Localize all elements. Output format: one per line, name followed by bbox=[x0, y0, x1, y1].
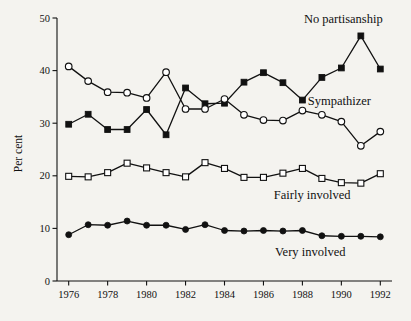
data-point-marker bbox=[182, 106, 189, 113]
data-point-marker bbox=[319, 233, 325, 239]
data-point-marker bbox=[183, 226, 189, 232]
data-point-marker bbox=[85, 111, 91, 117]
data-point-marker bbox=[124, 160, 130, 166]
data-point-marker bbox=[202, 160, 208, 166]
data-point-marker bbox=[144, 222, 150, 228]
series-no-partisanship bbox=[66, 33, 383, 138]
data-point-marker bbox=[183, 85, 189, 91]
y-axis-title: Per cent bbox=[12, 134, 24, 172]
line-chart-canvas: 0102030405019761978198019821984198619881… bbox=[0, 0, 411, 321]
data-point-marker bbox=[105, 127, 111, 133]
data-point-marker bbox=[338, 233, 344, 239]
data-point-marker bbox=[222, 228, 228, 234]
data-point-marker bbox=[299, 165, 305, 171]
data-point-marker bbox=[358, 143, 365, 150]
data-point-marker bbox=[124, 89, 131, 96]
y-axis-tick-label: 20 bbox=[40, 170, 51, 181]
x-axis-tick-label: 1986 bbox=[253, 289, 274, 300]
data-point-marker bbox=[280, 117, 287, 124]
data-point-marker bbox=[377, 66, 383, 72]
x-axis-tick-label: 1990 bbox=[331, 289, 352, 300]
data-point-marker bbox=[299, 107, 306, 114]
data-point-marker bbox=[338, 180, 344, 186]
series-label-no-partisanship: No partisanship bbox=[304, 12, 383, 26]
data-point-marker bbox=[124, 127, 130, 133]
data-point-marker bbox=[319, 175, 325, 181]
series-line bbox=[69, 36, 381, 135]
data-point-marker bbox=[260, 117, 267, 124]
data-point-marker bbox=[377, 128, 384, 135]
series-very-involved bbox=[66, 218, 384, 240]
series-fairly-involved bbox=[66, 160, 384, 187]
data-point-marker bbox=[66, 173, 72, 179]
x-axis-tick-label: 1992 bbox=[370, 289, 391, 300]
data-point-marker bbox=[260, 228, 266, 234]
data-point-marker bbox=[65, 63, 72, 70]
data-point-marker bbox=[299, 228, 305, 234]
data-point-marker bbox=[241, 111, 248, 118]
data-point-marker bbox=[260, 174, 266, 180]
data-point-marker bbox=[202, 106, 209, 113]
data-point-marker bbox=[261, 70, 267, 76]
data-point-marker bbox=[66, 121, 72, 127]
x-axis-tick-label: 1980 bbox=[136, 289, 157, 300]
data-point-marker bbox=[104, 89, 111, 96]
data-point-marker bbox=[124, 218, 130, 224]
data-point-marker bbox=[163, 132, 169, 138]
data-point-marker bbox=[85, 222, 91, 228]
data-point-marker bbox=[358, 33, 364, 39]
data-point-marker bbox=[144, 107, 150, 113]
data-point-marker bbox=[280, 170, 286, 176]
data-point-marker bbox=[183, 174, 189, 180]
series-annotations: No partisanshipSympathizerFairly involve… bbox=[274, 12, 383, 258]
y-axis-tick-label: 0 bbox=[45, 276, 50, 287]
data-point-marker bbox=[221, 96, 228, 103]
data-point-marker bbox=[163, 69, 170, 76]
data-point-marker bbox=[300, 97, 306, 103]
x-axis-tick-label: 1982 bbox=[175, 289, 196, 300]
data-point-marker bbox=[163, 170, 169, 176]
data-point-marker bbox=[241, 79, 247, 85]
data-point-marker bbox=[358, 233, 364, 239]
data-point-marker bbox=[143, 95, 150, 102]
y-axis-tick-label: 30 bbox=[40, 118, 51, 129]
data-point-marker bbox=[319, 111, 326, 118]
data-point-marker bbox=[105, 222, 111, 228]
data-point-marker bbox=[319, 75, 325, 81]
data-point-marker bbox=[280, 80, 286, 86]
data-point-marker bbox=[338, 65, 344, 71]
data-point-marker bbox=[241, 174, 247, 180]
data-point-marker bbox=[280, 228, 286, 234]
data-point-marker bbox=[241, 228, 247, 234]
x-axis-tick-label: 1984 bbox=[214, 289, 236, 300]
x-axis-tick-label: 1978 bbox=[97, 289, 118, 300]
series-label-fairly-involved: Fairly involved bbox=[274, 188, 351, 202]
y-axis-tick-label: 10 bbox=[40, 223, 51, 234]
chart-series-layer bbox=[65, 33, 383, 240]
y-axis-tick-label: 50 bbox=[40, 13, 51, 24]
y-axis-tick-label: 40 bbox=[40, 65, 51, 76]
chart-figure: 0102030405019761978198019821984198619881… bbox=[0, 0, 411, 321]
data-point-marker bbox=[85, 174, 91, 180]
data-point-marker bbox=[85, 78, 92, 85]
series-label-very-involved: Very involved bbox=[275, 245, 346, 259]
data-point-marker bbox=[338, 118, 345, 125]
data-point-marker bbox=[66, 232, 72, 238]
data-point-marker bbox=[377, 171, 383, 177]
data-point-marker bbox=[377, 234, 383, 240]
data-point-marker bbox=[202, 222, 208, 228]
data-point-marker bbox=[163, 222, 169, 228]
x-axis-tick-label: 1976 bbox=[58, 289, 79, 300]
series-label-sympathizer: Sympathizer bbox=[308, 94, 372, 108]
data-point-marker bbox=[358, 180, 364, 186]
x-axis-tick-label: 1988 bbox=[292, 289, 313, 300]
data-point-marker bbox=[105, 170, 111, 176]
data-point-marker bbox=[222, 165, 228, 171]
data-point-marker bbox=[144, 165, 150, 171]
